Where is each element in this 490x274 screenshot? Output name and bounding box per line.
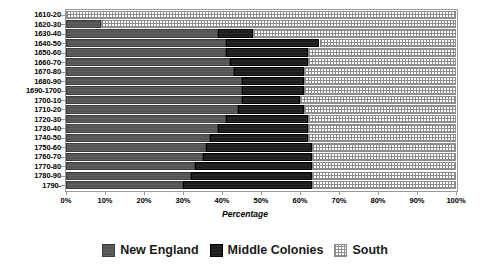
bar-row[interactable] bbox=[0, 29, 490, 37]
x-axis-tick bbox=[456, 191, 457, 195]
bar-segment-middle-colonies[interactable] bbox=[218, 29, 253, 37]
x-axis-tick bbox=[378, 191, 379, 195]
bar-segment-new-england[interactable] bbox=[66, 134, 210, 142]
bar-row[interactable] bbox=[0, 162, 490, 170]
bar-segment-new-england[interactable] bbox=[66, 181, 183, 189]
x-axis-label-50pct: 50% bbox=[241, 196, 281, 205]
bar-row[interactable] bbox=[0, 115, 490, 123]
x-axis-label-100pct: 100% bbox=[436, 196, 476, 205]
bar-segment-new-england[interactable] bbox=[66, 48, 226, 56]
x-axis-tick bbox=[144, 191, 145, 195]
bar-segment-new-england[interactable] bbox=[66, 58, 230, 66]
stacked-bar-chart: 1610-201620-301630-401640-501650-601660-… bbox=[0, 0, 490, 274]
x-axis-label-10pct: 10% bbox=[85, 196, 125, 205]
bar-row[interactable] bbox=[0, 153, 490, 161]
bar-row[interactable] bbox=[0, 86, 490, 94]
bar-segment-middle-colonies[interactable] bbox=[183, 181, 312, 189]
bar-segment-south[interactable] bbox=[320, 39, 457, 47]
bar-segment-south[interactable] bbox=[253, 29, 456, 37]
bar-segment-middle-colonies[interactable] bbox=[191, 172, 312, 180]
bar-segment-middle-colonies[interactable] bbox=[226, 48, 308, 56]
bar-segment-new-england[interactable] bbox=[66, 77, 242, 85]
bar-row[interactable] bbox=[0, 105, 490, 113]
bar-segment-new-england[interactable] bbox=[66, 124, 218, 132]
bar-row[interactable] bbox=[0, 172, 490, 180]
x-axis-tick bbox=[105, 191, 106, 195]
bar-segment-south[interactable] bbox=[312, 181, 456, 189]
bar-segment-middle-colonies[interactable] bbox=[242, 86, 304, 94]
bar-segment-middle-colonies[interactable] bbox=[226, 115, 308, 123]
legend-item-south[interactable]: South bbox=[334, 244, 387, 257]
x-axis-label-30pct: 30% bbox=[163, 196, 203, 205]
bar-segment-south[interactable] bbox=[308, 124, 456, 132]
bar-segment-new-england[interactable] bbox=[66, 29, 218, 37]
bar-segment-middle-colonies[interactable] bbox=[206, 143, 311, 151]
bar-segment-new-england[interactable] bbox=[66, 143, 206, 151]
bar-segment-new-england[interactable] bbox=[66, 20, 101, 28]
x-axis-label-90pct: 90% bbox=[397, 196, 437, 205]
bar-segment-new-england[interactable] bbox=[66, 162, 195, 170]
bar-segment-south[interactable] bbox=[312, 172, 456, 180]
legend-item-middle-colonies[interactable]: Middle Colonies bbox=[210, 244, 324, 257]
bar-row[interactable] bbox=[0, 48, 490, 56]
bar-segment-new-england[interactable] bbox=[66, 86, 242, 94]
bar-row[interactable] bbox=[0, 124, 490, 132]
x-axis-tick bbox=[417, 191, 418, 195]
bar-row[interactable] bbox=[0, 11, 490, 19]
bar-segment-south[interactable] bbox=[66, 11, 456, 19]
bar-row[interactable] bbox=[0, 20, 490, 28]
bar-row[interactable] bbox=[0, 39, 490, 47]
bar-row[interactable] bbox=[0, 143, 490, 151]
bar-segment-south[interactable] bbox=[304, 105, 456, 113]
bar-segment-new-england[interactable] bbox=[66, 153, 203, 161]
bar-segment-south[interactable] bbox=[308, 134, 456, 142]
bar-segment-new-england[interactable] bbox=[66, 115, 226, 123]
bar-segment-south[interactable] bbox=[300, 96, 456, 104]
x-axis-label-0pct: 0% bbox=[46, 196, 86, 205]
bar-segment-new-england[interactable] bbox=[66, 67, 234, 75]
bar-segment-south[interactable] bbox=[304, 77, 456, 85]
bar-segment-middle-colonies[interactable] bbox=[226, 39, 320, 47]
bar-segment-middle-colonies[interactable] bbox=[210, 134, 308, 142]
bar-segment-south[interactable] bbox=[308, 58, 456, 66]
bar-segment-middle-colonies[interactable] bbox=[218, 124, 308, 132]
legend-swatch-new-england bbox=[102, 244, 115, 257]
bar-segment-south[interactable] bbox=[101, 20, 456, 28]
bar-segment-south[interactable] bbox=[312, 143, 456, 151]
x-axis-tick bbox=[66, 191, 67, 195]
x-axis-tick bbox=[339, 191, 340, 195]
bar-row[interactable] bbox=[0, 58, 490, 66]
bar-row[interactable] bbox=[0, 96, 490, 104]
bar-segment-south[interactable] bbox=[312, 153, 456, 161]
bar-segment-south[interactable] bbox=[304, 67, 456, 75]
x-axis-tick bbox=[183, 191, 184, 195]
bar-segment-middle-colonies[interactable] bbox=[242, 96, 301, 104]
legend-swatch-middle-colonies bbox=[210, 244, 223, 257]
bar-segment-south[interactable] bbox=[308, 48, 456, 56]
bar-segment-south[interactable] bbox=[308, 115, 456, 123]
bar-segment-south[interactable] bbox=[312, 162, 456, 170]
x-axis-label-60pct: 60% bbox=[280, 196, 320, 205]
bar-segment-new-england[interactable] bbox=[66, 96, 242, 104]
bar-segment-middle-colonies[interactable] bbox=[234, 67, 304, 75]
bar-segment-middle-colonies[interactable] bbox=[238, 105, 304, 113]
x-axis-tick bbox=[261, 191, 262, 195]
x-axis-title: Percentage bbox=[0, 209, 490, 219]
legend-label-south: South bbox=[352, 244, 387, 257]
legend-item-new-england[interactable]: New England bbox=[102, 244, 198, 257]
bar-segment-middle-colonies[interactable] bbox=[195, 162, 312, 170]
bar-segment-new-england[interactable] bbox=[66, 105, 238, 113]
bar-row[interactable] bbox=[0, 181, 490, 189]
bar-segment-new-england[interactable] bbox=[66, 172, 191, 180]
x-axis-label-40pct: 40% bbox=[202, 196, 242, 205]
bar-segment-middle-colonies[interactable] bbox=[242, 77, 304, 85]
bar-segment-middle-colonies[interactable] bbox=[203, 153, 312, 161]
bar-row[interactable] bbox=[0, 77, 490, 85]
bar-segment-south[interactable] bbox=[304, 86, 456, 94]
legend-label-new-england: New England bbox=[120, 244, 198, 257]
bar-row[interactable] bbox=[0, 134, 490, 142]
bar-segment-new-england[interactable] bbox=[66, 39, 226, 47]
chart-legend: New England Middle Colonies South bbox=[0, 244, 490, 257]
bar-segment-middle-colonies[interactable] bbox=[230, 58, 308, 66]
bar-row[interactable] bbox=[0, 67, 490, 75]
